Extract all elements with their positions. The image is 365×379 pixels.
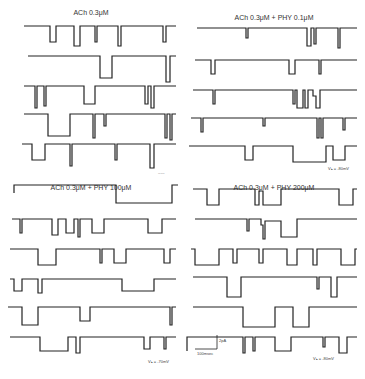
current-traces (183, 181, 365, 379)
panel-phy-100: ACh 0.3μM + PHY 100μM Vₕ = -70mV (0, 181, 182, 379)
scale-bar-current: 2pA (219, 338, 226, 343)
panel-phy-0-1: ACh 0.3μM + PHY 0.1μM Vₕ = -80mV (183, 0, 365, 180)
scale-bar-time: 100msec (197, 351, 213, 356)
scale-note: ----- (158, 170, 165, 175)
holding-potential-note: Vₕ = -70mV (148, 359, 169, 364)
holding-potential-note: Vₕ = -80mV (313, 356, 334, 361)
current-traces (183, 0, 365, 180)
current-traces (0, 181, 182, 379)
current-traces (0, 0, 182, 180)
panel-phy-200: ACh 0.3μM + PHY 200μM 2pA 100msec Vₕ = -… (183, 181, 365, 379)
holding-potential-note: Vₕ = -80mV (328, 166, 349, 171)
panel-ach: ACh 0.3μM ----- (0, 0, 182, 180)
